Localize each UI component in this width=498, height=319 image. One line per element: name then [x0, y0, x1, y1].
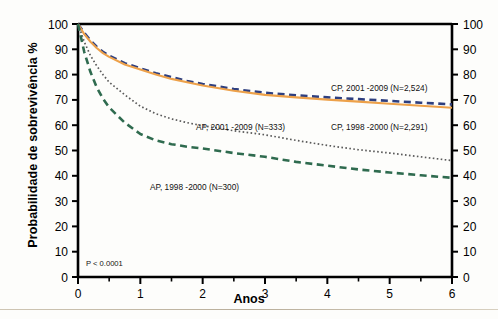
p-value-annotation: P < 0.0001 [86, 259, 123, 268]
y-tick-label-right-100: 100 [463, 18, 483, 32]
axis-lines [78, 24, 452, 277]
y-tick-label-right-80: 80 [463, 68, 477, 82]
y-axis-title: Probabilidade de sobrevivência % [26, 20, 40, 270]
y-tick-label-right-90: 90 [463, 43, 477, 57]
y-tick-label-100: 100 [48, 18, 68, 32]
y-tick-label-90: 90 [55, 43, 69, 57]
y-tick-label-0: 0 [61, 271, 68, 285]
label-ap-2001: AP, 2001 -2009 (N=333) [196, 122, 285, 132]
y-tick-label-30: 30 [55, 195, 69, 209]
y-tick-label-80: 80 [55, 68, 69, 82]
y-tick-label-10: 10 [55, 245, 69, 259]
survival-chart-figure: Probabilidade de sobrevivência % Anos 01… [0, 0, 498, 319]
y-axis-ticks-left: 0102030405060708090100 [48, 18, 78, 285]
x-axis-title: Anos [0, 292, 498, 306]
y-tick-label-right-10: 10 [463, 245, 477, 259]
y-tick-label-40: 40 [55, 169, 69, 183]
y-tick-label-50: 50 [55, 144, 69, 158]
y-axis-ticks-right: 0102030405060708090100 [452, 18, 483, 285]
y-tick-label-right-40: 40 [463, 169, 477, 183]
label-cp-1998: CP, 1998 -2000 (N=2,291) [331, 122, 428, 132]
label-ap-1998: AP, 1998 -2000 (N=300) [150, 182, 239, 192]
y-tick-label-70: 70 [55, 93, 69, 107]
y-tick-label-right-30: 30 [463, 195, 477, 209]
y-tick-label-right-60: 60 [463, 119, 477, 133]
y-tick-label-20: 20 [55, 220, 69, 234]
y-tick-label-60: 60 [55, 119, 69, 133]
page-divider [0, 309, 498, 310]
plot-area: 0102030405060708090100 01020304050607080… [0, 0, 498, 300]
label-cp-2001: CP, 2001 -2009 (N=2,524) [331, 83, 428, 93]
survival-curves [78, 24, 452, 178]
y-tick-label-right-0: 0 [463, 271, 470, 285]
y-tick-label-right-70: 70 [463, 93, 477, 107]
y-tick-label-right-50: 50 [463, 144, 477, 158]
y-tick-label-right-20: 20 [463, 220, 477, 234]
